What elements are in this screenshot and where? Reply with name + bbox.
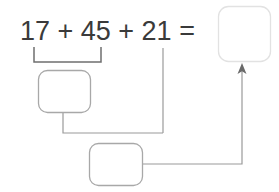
grouping-bracket-icon bbox=[34, 47, 101, 62]
connector-box2-to-answer bbox=[142, 70, 242, 164]
addition-strategy-diagram: 17 + 45 + 21 = bbox=[0, 0, 279, 192]
first-partial-sum-box[interactable] bbox=[39, 71, 91, 113]
equation-expression: 17 + 45 + 21 = bbox=[20, 16, 195, 46]
second-partial-sum-box[interactable] bbox=[90, 144, 143, 186]
worksheet-canvas: 17 + 45 + 21 = bbox=[0, 0, 279, 192]
connector-box1-to-junction bbox=[63, 112, 163, 133]
final-answer-box[interactable] bbox=[219, 7, 271, 62]
